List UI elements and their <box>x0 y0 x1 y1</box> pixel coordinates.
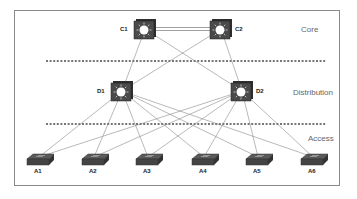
layer-label-core: Core <box>301 25 318 34</box>
node-label-a4: A4 <box>199 168 207 174</box>
switch-icon[interactable] <box>27 154 54 165</box>
switch-icon[interactable] <box>246 154 273 165</box>
layer-label-access: Access <box>308 134 334 143</box>
multilayer-switch-icon[interactable] <box>231 81 253 101</box>
node-label-c2: C2 <box>235 26 243 32</box>
multilayer-switch-icon[interactable] <box>111 81 133 101</box>
switch-icon[interactable] <box>136 154 163 165</box>
switch-icon[interactable] <box>192 154 219 165</box>
node-label-d1: D1 <box>97 88 105 94</box>
node-label-a6: A6 <box>308 168 316 174</box>
node-label-a3: A3 <box>143 168 151 174</box>
node-label-a1: A1 <box>34 168 42 174</box>
multilayer-switch-icon[interactable] <box>134 19 156 39</box>
node-label-c1: C1 <box>120 26 128 32</box>
switch-icon[interactable] <box>82 154 109 165</box>
multilayer-switch-icon[interactable] <box>210 19 232 39</box>
node-label-a2: A2 <box>89 168 97 174</box>
node-label-d2: D2 <box>256 88 264 94</box>
switch-icon[interactable] <box>301 154 328 165</box>
layer-label-distribution: Distribution <box>293 88 333 97</box>
node-label-a5: A5 <box>253 168 261 174</box>
